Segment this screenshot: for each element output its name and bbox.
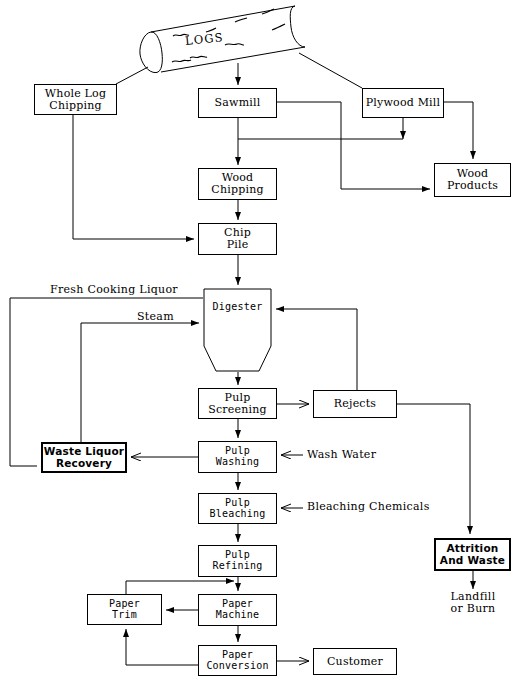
node-digester[interactable]: Digester xyxy=(203,288,272,372)
edge-steam-digester xyxy=(81,323,199,442)
node-rejects[interactable]: Rejects xyxy=(313,390,397,418)
edge-rejects-attrition xyxy=(397,404,470,534)
edge-rejects-digester xyxy=(276,309,357,390)
node-whole-log-chipping[interactable]: Whole Log Chipping xyxy=(34,84,117,115)
node-label: Rejects xyxy=(334,398,376,410)
node-label: Sawmill xyxy=(215,97,261,109)
node-label: Paper Trim xyxy=(109,599,140,621)
node-label: Plywood Mill xyxy=(366,97,441,109)
node-label: Attrition And Waste xyxy=(440,543,505,566)
node-waste-liquor-recovery[interactable]: Waste Liquor Recovery xyxy=(41,442,127,473)
node-sawmill[interactable]: Sawmill xyxy=(198,88,277,118)
edge-plywood-woodproducts xyxy=(444,102,473,159)
node-pulp-screening[interactable]: Pulp Screening xyxy=(198,388,277,419)
node-label: Paper Machine xyxy=(216,599,260,621)
label-steam: Steam xyxy=(137,311,174,323)
label-bleaching-chemicals: Bleaching Chemicals xyxy=(307,501,430,513)
node-label: Whole Log Chipping xyxy=(45,88,106,112)
flowchart-canvas: LOGS Whole Log Chipping Sawmill Plywood … xyxy=(0,0,525,682)
node-label: Digester xyxy=(213,302,263,313)
edge-wholelog-chippile xyxy=(73,115,194,239)
node-paper-trim[interactable]: Paper Trim xyxy=(87,594,162,625)
node-label: Wood Products xyxy=(447,168,498,192)
node-paper-machine[interactable]: Paper Machine xyxy=(198,594,277,626)
label-wash-water: Wash Water xyxy=(307,449,376,461)
node-label: Wood Chipping xyxy=(211,172,263,196)
edge-paperconversion-papertrim xyxy=(126,629,198,665)
node-customer[interactable]: Customer xyxy=(313,648,397,675)
node-pulp-bleaching[interactable]: Pulp Bleaching xyxy=(198,493,277,524)
edge-logs-wholelog xyxy=(116,67,148,84)
edge-papertrim-recycle xyxy=(126,581,234,594)
node-chip-pile[interactable]: Chip Pile xyxy=(198,223,277,255)
node-label: Pulp Refining xyxy=(213,550,263,572)
node-attrition-and-waste[interactable]: Attrition And Waste xyxy=(434,538,511,571)
node-pulp-refining[interactable]: Pulp Refining xyxy=(198,545,277,577)
node-label: Paper Conversion xyxy=(206,650,268,672)
node-pulp-washing[interactable]: Pulp Washing xyxy=(198,441,277,473)
node-wood-chipping[interactable]: Wood Chipping xyxy=(198,168,277,200)
node-label: Waste Liquor Recovery xyxy=(44,446,124,469)
node-plywood-mill[interactable]: Plywood Mill xyxy=(362,88,444,118)
node-label: Pulp Bleaching xyxy=(210,498,266,520)
edge-logs-plywood xyxy=(299,53,362,88)
node-label: Pulp Washing xyxy=(216,446,260,468)
label-landfill-or-burn: Landfill or Burn xyxy=(440,591,506,616)
node-label: Customer xyxy=(327,656,383,668)
node-wood-products[interactable]: Wood Products xyxy=(434,163,511,197)
node-label: Pulp Screening xyxy=(208,392,267,416)
label-fresh-cooking-liquor: Fresh Cooking Liquor xyxy=(50,284,178,296)
node-paper-conversion[interactable]: Paper Conversion xyxy=(198,645,277,676)
node-label: Chip Pile xyxy=(224,227,251,251)
